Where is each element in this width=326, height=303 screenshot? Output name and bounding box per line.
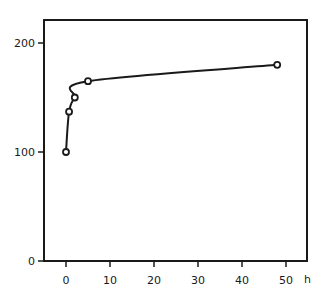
data-point-marker [72,95,78,101]
plot-border [44,20,307,261]
x-tick-label: 50 [279,274,293,287]
x-tick-label: 20 [147,274,161,287]
data-point-marker [85,78,91,84]
x-tick-label: 30 [191,274,205,287]
x-axis-unit-label: h [304,273,311,286]
data-curve [66,65,277,152]
x-tick-label: 10 [103,274,117,287]
x-tick-label: 40 [235,274,249,287]
data-point-marker [274,62,280,68]
data-points [63,62,280,155]
y-tick-label: 0 [28,255,35,268]
line-chart: 0100200 01020304050 h [0,0,326,303]
plot-frame [44,20,307,261]
y-tick-label: 100 [14,146,35,159]
data-point-marker [66,109,72,115]
data-point-marker [63,149,69,155]
x-axis: 01020304050 [63,261,294,287]
y-axis: 0100200 [14,37,44,268]
y-tick-label: 200 [14,37,35,50]
x-tick-label: 0 [63,274,70,287]
